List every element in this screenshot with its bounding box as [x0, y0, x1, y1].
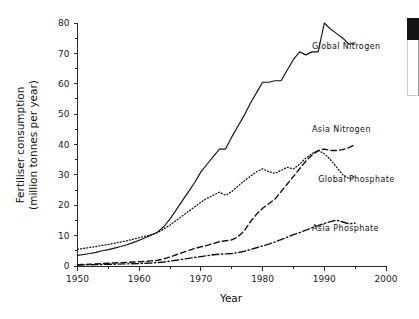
- y-tick-label: 60: [58, 79, 70, 89]
- y-axis-title-line-1: Fertiliser consumption: [14, 87, 26, 204]
- y-tick-label: 20: [58, 200, 70, 210]
- series-label-asia-phosphate: Asia Phosphate: [312, 224, 379, 233]
- fertiliser-consumption-line-chart: 01020304050607080 1950196019701980199020…: [0, 0, 419, 319]
- x-tick-label: 1990: [313, 274, 336, 284]
- x-axis-title: Year: [219, 292, 243, 304]
- series-inline-labels: Global NitrogenGlobal PhosphateAsia Nitr…: [312, 42, 395, 233]
- series-label-global-phosphate: Global Phosphate: [318, 175, 395, 184]
- y-tick-label: 0: [64, 261, 70, 271]
- y-tick-label: 40: [58, 140, 70, 150]
- right-edge-fragment-icon: [407, 18, 419, 40]
- x-tick-label: 1980: [251, 274, 274, 284]
- series-line-global-nitrogen: [78, 23, 356, 255]
- x-axis-tick-labels: 195019601970198019902000: [66, 274, 398, 284]
- right-edge-rail: [407, 40, 419, 96]
- y-tick-label: 50: [58, 109, 70, 119]
- x-tick-label: 2000: [375, 274, 398, 284]
- y-axis-title-line-2: (million tonnes per year): [27, 80, 39, 210]
- y-axis-ticks: [74, 23, 78, 266]
- x-tick-label: 1970: [189, 274, 212, 284]
- x-tick-label: 1960: [128, 274, 151, 284]
- x-tick-label: 1950: [66, 274, 89, 284]
- y-axis-tick-labels: 01020304050607080: [58, 18, 70, 271]
- y-tick-label: 70: [58, 49, 70, 59]
- y-tick-label: 10: [58, 231, 70, 241]
- y-tick-label: 80: [58, 18, 70, 28]
- chart-figure: 01020304050607080 1950196019701980199020…: [0, 0, 419, 319]
- series-label-global-nitrogen: Global Nitrogen: [312, 42, 380, 51]
- y-tick-label: 30: [58, 170, 70, 180]
- series-line-global-phosphate: [78, 151, 356, 250]
- series-label-asia-nitrogen: Asia Nitrogen: [312, 125, 371, 134]
